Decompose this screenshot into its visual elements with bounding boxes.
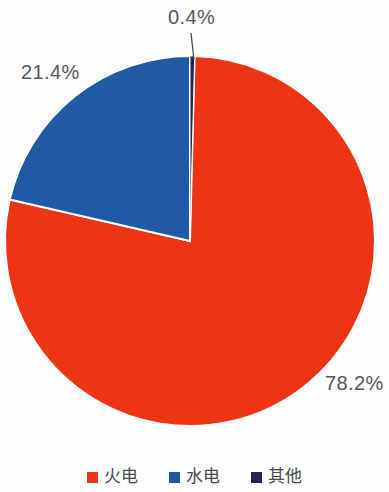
legend-item-thermal[interactable]: 火电 xyxy=(87,468,139,486)
chart-legend: 火电 水电 其他 xyxy=(0,462,389,492)
pie-chart-plot-area: 0.4% 21.4% 78.2% xyxy=(0,0,389,456)
legend-swatch-icon-thermal xyxy=(87,472,98,483)
pie-value-label-other: 0.4% xyxy=(168,7,215,27)
pie-value-label-hydro: 21.4% xyxy=(21,62,80,82)
legend-label-other: 其他 xyxy=(268,468,303,486)
legend-item-other[interactable]: 其他 xyxy=(251,468,303,486)
chart-figure: 0.4% 21.4% 78.2% 火电 水电 其他 xyxy=(0,0,389,492)
legend-label-hydro: 水电 xyxy=(186,468,221,486)
legend-swatch-icon-other xyxy=(251,472,262,483)
pie-value-label-thermal: 78.2% xyxy=(325,373,384,393)
legend-swatch-icon-hydro xyxy=(169,472,180,483)
legend-item-hydro[interactable]: 水电 xyxy=(169,468,221,486)
legend-label-thermal: 火电 xyxy=(104,468,139,486)
